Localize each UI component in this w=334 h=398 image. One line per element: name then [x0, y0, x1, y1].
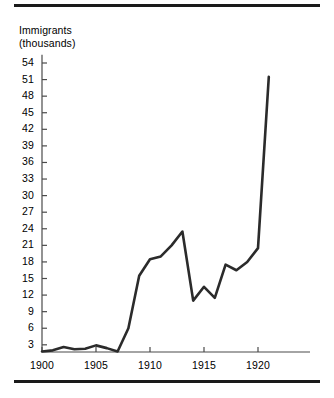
x-tick-label: 1915 — [184, 360, 224, 371]
y-tick-label: 42 — [8, 123, 34, 134]
y-tick-label: 39 — [8, 140, 34, 151]
y-tick-label: 45 — [8, 107, 34, 118]
series-group — [42, 77, 269, 352]
y-tick-label: 36 — [8, 156, 34, 167]
y-tick-label: 15 — [8, 273, 34, 284]
y-tick-label: 21 — [8, 239, 34, 250]
y-tick-label: 48 — [8, 90, 34, 101]
y-tick-label: 33 — [8, 173, 34, 184]
axes-group — [42, 55, 310, 352]
y-tick-label: 54 — [8, 57, 34, 68]
y-tick-label: 9 — [8, 306, 34, 317]
y-tick-label: 27 — [8, 206, 34, 217]
y-tick-label: 12 — [8, 289, 34, 300]
y-tick-label: 24 — [8, 223, 34, 234]
y-tick-label: 51 — [8, 74, 34, 85]
data-line-1 — [42, 77, 269, 352]
y-tick-label: 3 — [8, 339, 34, 350]
x-tick-label: 1900 — [22, 360, 62, 371]
x-tick-label: 1920 — [238, 360, 278, 371]
y-tick-label: 6 — [8, 322, 34, 333]
plot-area: 369121518212427303336394245485154 190019… — [0, 0, 334, 398]
figure: Immigrants (thousands) 36912151821242730… — [0, 0, 334, 398]
x-tick-label: 1910 — [130, 360, 170, 371]
chart-canvas — [0, 0, 334, 398]
x-tick-label: 1905 — [76, 360, 116, 371]
y-tick-label: 30 — [8, 190, 34, 201]
y-tick-label: 18 — [8, 256, 34, 267]
